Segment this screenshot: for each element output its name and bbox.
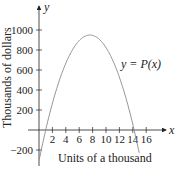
svg-text:−200: −200: [10, 144, 33, 156]
curve-label: y = P(x): [120, 57, 161, 71]
svg-text:10: 10: [101, 133, 113, 145]
svg-text:1000: 1000: [11, 24, 34, 36]
svg-text:200: 200: [17, 104, 34, 116]
svg-text:800: 800: [17, 44, 34, 56]
svg-text:2: 2: [50, 133, 56, 145]
svg-text:12: 12: [114, 133, 125, 145]
svg-text:6: 6: [76, 133, 82, 145]
svg-text:400: 400: [17, 84, 34, 96]
svg-text:16: 16: [141, 133, 153, 145]
y-ticks: −2002004006008001000: [10, 24, 42, 156]
y-axis-label: Thousands of dollars: [0, 27, 14, 128]
chart: 246810121416 −2002004006008001000 y x y …: [0, 0, 177, 169]
x-axis-label: Units of a thousand: [58, 151, 152, 165]
svg-text:4: 4: [63, 133, 69, 145]
svg-text:600: 600: [17, 64, 34, 76]
y-axis-name: y: [43, 0, 50, 14]
x-axis-name: x: [168, 123, 175, 137]
svg-text:8: 8: [90, 133, 96, 145]
